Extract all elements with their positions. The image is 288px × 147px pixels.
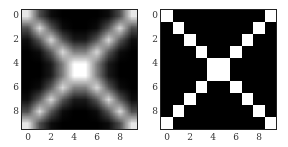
heatmap-cell <box>242 69 254 81</box>
heatmap-cell <box>265 22 277 34</box>
x-tick-0: 0 <box>162 133 172 142</box>
heatmap-cell <box>207 69 219 81</box>
heatmap-cell <box>207 105 219 117</box>
x-tick-8: 8 <box>115 133 125 142</box>
heatmap-cell <box>173 46 185 58</box>
heatmap-cell <box>173 105 185 117</box>
heatmap-cell <box>207 58 219 70</box>
heatmap-cell <box>265 46 277 58</box>
heatmap-cell <box>219 69 231 81</box>
heatmap-cell <box>253 81 265 93</box>
heatmap-cell <box>265 10 277 22</box>
heatmap-cell <box>184 93 196 105</box>
heatmap-cell <box>196 117 208 129</box>
heatmap-cell <box>184 10 196 22</box>
heatmap-cell <box>219 81 231 93</box>
x-tick-8: 8 <box>254 133 264 142</box>
heatmap-cell <box>242 81 254 93</box>
heatmap-cell <box>265 105 277 117</box>
heatmap-cell <box>230 105 242 117</box>
heatmap-cell <box>242 58 254 70</box>
y-tick-2: 2 <box>148 35 158 44</box>
heatmap-cell <box>242 46 254 58</box>
heatmap-cell <box>173 22 185 34</box>
heatmap-cell <box>219 34 231 46</box>
heatmap-cell <box>265 81 277 93</box>
heatmap-cell <box>161 22 173 34</box>
heatmap-cell <box>161 46 173 58</box>
heatmap-cell <box>196 46 208 58</box>
heatmap-cell <box>253 105 265 117</box>
heatmap-cell <box>161 69 173 81</box>
heatmap-cell <box>207 22 219 34</box>
heatmap-cell <box>265 117 277 129</box>
heatmap-cell <box>253 69 265 81</box>
heatmap-cell <box>253 58 265 70</box>
heatmap-cell <box>230 10 242 22</box>
heatmap-cell <box>230 58 242 70</box>
heatmap-cell <box>196 34 208 46</box>
heatmap-cell <box>242 105 254 117</box>
x-tick-4: 4 <box>69 133 79 142</box>
heatmap-cell <box>265 34 277 46</box>
y-tick-8: 8 <box>148 107 158 116</box>
heatmap-cell <box>173 58 185 70</box>
heatmap-cell <box>230 22 242 34</box>
heatmap-cell <box>207 117 219 129</box>
heatmap-cell <box>161 10 173 22</box>
heatmap-cell <box>230 34 242 46</box>
heatmap-cell <box>207 93 219 105</box>
blurred-x-heatmap <box>22 10 137 129</box>
heatmap-cell <box>173 81 185 93</box>
heatmap-cell <box>184 58 196 70</box>
heatmap-cell <box>219 22 231 34</box>
heatmap-cell <box>184 22 196 34</box>
x-tick-6: 6 <box>92 133 102 142</box>
heatmap-cell <box>253 117 265 129</box>
heatmap-cell <box>207 10 219 22</box>
heatmap-cell <box>207 46 219 58</box>
heatmap-cell <box>253 46 265 58</box>
heatmap-cell <box>173 117 185 129</box>
heatmap-cell <box>184 105 196 117</box>
heatmap-cell <box>219 46 231 58</box>
heatmap-cell <box>196 81 208 93</box>
heatmap-cell <box>207 81 219 93</box>
heatmap-cell <box>219 58 231 70</box>
y-tick-6: 6 <box>148 83 158 92</box>
heatmap-cell <box>242 93 254 105</box>
heatmap-cell <box>253 93 265 105</box>
y-tick-8: 8 <box>9 107 19 116</box>
heatmap-cell <box>265 58 277 70</box>
heatmap-cell <box>196 22 208 34</box>
binary-heatmap-grid <box>161 10 276 129</box>
heatmap-cell <box>173 34 185 46</box>
heatmap-cell <box>196 10 208 22</box>
heatmap-cell <box>161 34 173 46</box>
heatmap-cell <box>161 105 173 117</box>
heatmap-cell <box>184 46 196 58</box>
heatmap-cell <box>196 93 208 105</box>
heatmap-cell <box>253 34 265 46</box>
heatmap-cell <box>161 81 173 93</box>
heatmap-cell <box>219 117 231 129</box>
heatmap-cell <box>242 117 254 129</box>
heatmap-cell <box>242 34 254 46</box>
heatmap-cell <box>173 69 185 81</box>
y-tick-4: 4 <box>9 59 19 68</box>
heatmap-cell <box>184 117 196 129</box>
y-tick-0: 0 <box>9 11 19 20</box>
heatmap-cell <box>219 93 231 105</box>
heatmap-cell <box>242 22 254 34</box>
heatmap-cell <box>230 46 242 58</box>
x-tick-4: 4 <box>208 133 218 142</box>
heatmap-cell <box>265 93 277 105</box>
heatmap-cell <box>184 34 196 46</box>
x-tick-0: 0 <box>23 133 33 142</box>
heatmap-cell <box>230 69 242 81</box>
x-tick-2: 2 <box>46 133 56 142</box>
blurred-heatmap-canvas <box>22 10 137 129</box>
heatmap-cell <box>253 10 265 22</box>
x-tick-2: 2 <box>185 133 195 142</box>
heatmap-cell <box>184 81 196 93</box>
